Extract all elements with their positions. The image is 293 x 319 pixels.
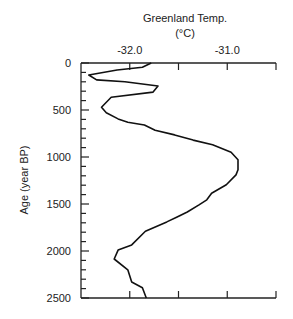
y-tick-label: 1500 [47,198,71,210]
y-tick-label: 500 [53,104,71,116]
x-tick-label: -32.0 [117,44,142,56]
series-line-greenland-temp [89,63,238,298]
series-layer [89,63,238,298]
temperature-chart: Greenland Temp. (°C) Age (year BP) -32.0… [0,0,293,319]
y-ticks: 05001000150020002500 [47,57,89,304]
y-tick-label: 2500 [47,292,71,304]
x-tick-label: -31.0 [215,44,240,56]
chart-title: Greenland Temp. [143,12,227,24]
y-axis-label: Age (year BP) [18,145,30,214]
y-tick-label: 1000 [47,151,71,163]
chart-title-unit: (°C) [175,27,195,39]
x-ticks: -32.0-31.0 [117,44,276,298]
y-tick-label: 0 [65,57,71,69]
y-tick-label: 2000 [47,245,71,257]
